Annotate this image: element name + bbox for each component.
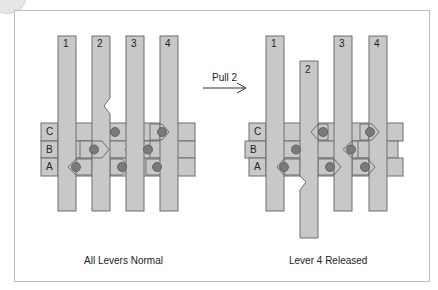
bar-label: B xyxy=(46,144,53,155)
locking-pin xyxy=(280,163,289,172)
lever-1 xyxy=(58,36,76,211)
locking-pin xyxy=(158,128,167,137)
right-diagram xyxy=(245,36,403,238)
right-caption: Lever 4 Released xyxy=(289,255,367,266)
lever-label: 2 xyxy=(305,64,311,75)
lever-label: 3 xyxy=(339,38,345,49)
bar-label: C xyxy=(254,126,261,137)
bar-label: A xyxy=(254,161,261,172)
lever-label: 4 xyxy=(374,38,380,49)
left-caption: All Levers Normal xyxy=(84,255,163,266)
lever-4 xyxy=(160,36,178,211)
locking-pin xyxy=(90,145,99,154)
bar-label: B xyxy=(250,144,257,155)
locking-pin xyxy=(153,163,162,172)
lever-1 xyxy=(266,36,284,211)
locking-pin xyxy=(118,163,127,172)
lever-label: 1 xyxy=(63,38,69,49)
lever-2 xyxy=(92,36,110,211)
arrow-icon xyxy=(203,83,246,93)
lever-label: 2 xyxy=(97,38,103,49)
locking-pin xyxy=(111,128,120,137)
locking-pin xyxy=(72,163,81,172)
lever-label: 4 xyxy=(165,38,171,49)
locking-pin xyxy=(326,163,335,172)
bar-label: C xyxy=(46,126,53,137)
locking-pin xyxy=(144,145,153,154)
locking-pin xyxy=(292,145,301,154)
lever-2 xyxy=(300,61,318,238)
left-diagram xyxy=(41,36,195,211)
bar-label: A xyxy=(46,161,53,172)
lever-label: 1 xyxy=(271,38,277,49)
locking-pin xyxy=(361,163,370,172)
locking-pin xyxy=(366,128,375,137)
lever-3 xyxy=(126,36,144,211)
locking-pin xyxy=(319,128,328,137)
locking-pin xyxy=(347,145,356,154)
lever-3 xyxy=(334,36,352,211)
action-label: Pull 2 xyxy=(212,72,237,83)
lever-label: 3 xyxy=(131,38,137,49)
